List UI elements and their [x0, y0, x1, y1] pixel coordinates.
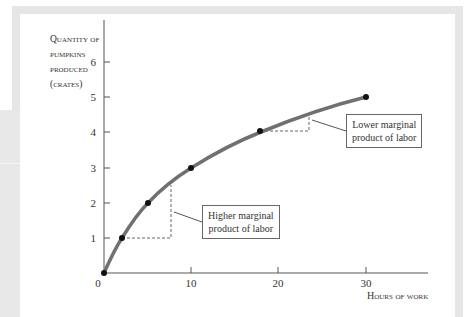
x-tick-labels: 0 10 20 30	[95, 277, 372, 289]
svg-text:30: 30	[361, 277, 373, 289]
production-function-curve	[104, 97, 366, 273]
svg-text:3: 3	[91, 162, 97, 174]
svg-text:20: 20	[273, 277, 285, 289]
lower-marginal-product-callout: Lower marginal product of labor	[346, 114, 422, 148]
higher-callout-leader	[174, 212, 202, 222]
x-ticks	[191, 267, 366, 273]
lower-callout-leader	[312, 120, 346, 131]
svg-text:10: 10	[186, 277, 198, 289]
svg-text:1: 1	[91, 232, 97, 244]
data-points	[101, 94, 369, 276]
higher-marginal-product-callout: Higher marginal product of labor	[202, 205, 280, 239]
svg-text:4: 4	[91, 126, 97, 138]
x-axis-label: Hours of work	[367, 290, 428, 301]
higher-mp-dashed-step	[122, 185, 171, 238]
svg-text:2: 2	[91, 197, 97, 209]
svg-text:0: 0	[95, 277, 101, 289]
svg-text:5: 5	[91, 91, 97, 103]
y-axis-label: Quantity of pumpkins produced (crates)	[50, 32, 99, 92]
y-ticks	[104, 62, 110, 238]
